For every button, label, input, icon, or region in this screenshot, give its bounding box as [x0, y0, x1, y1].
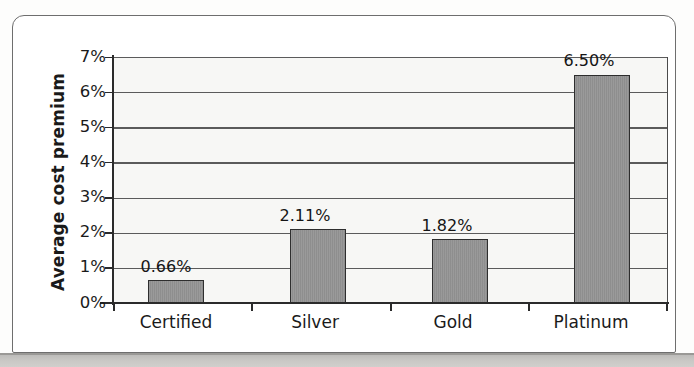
scanned-page-background: Average cost premium 7%	[0, 0, 694, 367]
x-tick-mark-4	[666, 303, 668, 311]
x-tick-mark-2	[390, 303, 392, 311]
y-tick-label-5pct: 5%	[62, 119, 106, 136]
bar-value-label-silver: 2.11%	[245, 208, 365, 224]
y-tick-label-4pct-wrap: 4%	[50, 154, 106, 170]
x-category-label-gold: Gold	[393, 314, 513, 331]
y-tick-label-6pct: 6%	[62, 84, 106, 101]
y-tick-label-0pct: 0%	[62, 295, 106, 312]
bar-certified	[148, 280, 204, 303]
y-tick-mark-7pct	[105, 57, 113, 59]
y-tick-label-2pct: 2%	[62, 224, 106, 241]
bar-value-label-gold: 1.82%	[387, 218, 507, 234]
y-tick-mark-3pct	[105, 197, 113, 199]
y-tick-label-2pct-wrap: 2%	[50, 224, 106, 240]
y-tick-mark-2pct	[105, 232, 113, 234]
bar-value-label-certified: 0.66%	[106, 259, 226, 275]
bar-silver	[290, 229, 346, 303]
y-tick-label-0pct-wrap: 0%	[50, 295, 106, 311]
y-tick-label-7pct: 7%	[62, 49, 106, 66]
y-tick-label-3pct: 3%	[62, 189, 106, 206]
page-bottom-band	[0, 355, 694, 367]
y-tick-label-7pct-wrap: 7%	[50, 49, 106, 65]
bar-chart: Average cost premium 7%	[0, 0, 694, 367]
y-tick-mark-6pct	[105, 92, 113, 94]
x-category-label-certified: Certified	[116, 314, 236, 331]
x-tick-mark-3	[528, 303, 530, 311]
y-tick-label-6pct-wrap: 6%	[50, 84, 106, 100]
x-category-label-silver: Silver	[255, 314, 375, 331]
y-tick-label-1pct: 1%	[62, 259, 106, 276]
y-tick-label-5pct-wrap: 5%	[50, 119, 106, 135]
y-tick-mark-4pct	[105, 162, 113, 164]
bar-value-label-platinum: 6.50%	[529, 53, 649, 69]
y-tick-mark-0pct	[105, 303, 113, 305]
bar-gold	[432, 239, 488, 303]
x-tick-mark-0	[113, 303, 115, 311]
bar-platinum	[574, 75, 630, 303]
x-category-label-platinum: Platinum	[531, 314, 651, 331]
y-tick-label-1pct-wrap: 1%	[50, 259, 106, 275]
y-tick-label-4pct: 4%	[62, 154, 106, 171]
y-tick-label-3pct-wrap: 3%	[50, 189, 106, 205]
y-tick-mark-5pct	[105, 127, 113, 129]
x-axis-line	[100, 302, 669, 304]
x-tick-mark-1	[251, 303, 253, 311]
